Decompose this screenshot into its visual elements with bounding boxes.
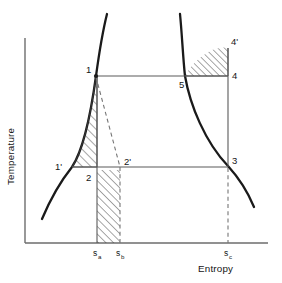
entropy-tick-sc: s c — [224, 248, 232, 260]
state-point-label-1p: 1' — [55, 161, 62, 172]
hatched-region-superheat — [185, 48, 228, 76]
saturation-dome-group — [42, 14, 254, 219]
superheat-region-fill — [185, 48, 228, 76]
hatched-region-heat-rejection — [97, 170, 120, 243]
state-point-1-marker — [94, 74, 98, 78]
saturated-vapor-line-curve — [180, 14, 254, 207]
y-axis-title: Temperature — [5, 127, 16, 185]
state-point-label-5: 5 — [179, 79, 184, 90]
state-point-label-4p: 4' — [231, 36, 238, 47]
state-point-label-4: 4 — [232, 70, 237, 81]
entropy-tick-sb-base: s — [116, 248, 120, 258]
state-point-label-1: 1 — [86, 64, 91, 75]
state-point-label-2p: 2' — [124, 156, 131, 167]
x-axis-title: Entropy — [198, 263, 233, 274]
axes-group — [25, 38, 268, 243]
state-point-label-3: 3 — [232, 155, 237, 166]
dashed-line-1-to-2p — [96, 77, 120, 167]
entropy-tick-sb-sub: b — [121, 253, 125, 260]
entropy-tick-sa-sub: a — [98, 253, 102, 260]
entropy-tick-sa: s a — [93, 248, 102, 260]
entropy-tick-sc-base: s — [224, 248, 228, 258]
entropy-tick-labels: s a s b s c — [93, 248, 232, 260]
state-point-markers — [94, 74, 98, 78]
entropy-tick-sb: s b — [116, 248, 125, 260]
entropy-tick-sa-base: s — [93, 248, 97, 258]
ts-diagram-figure: 1 1' 2 2' 3 4 4' 5 s a s b s c — [0, 0, 282, 283]
ts-diagram-svg: 1 1' 2 2' 3 4 4' 5 s a s b s c — [0, 0, 282, 283]
state-point-label-2: 2 — [86, 172, 91, 183]
heat-rejection-region-fill — [97, 170, 120, 243]
entropy-tick-sc-sub: c — [229, 253, 232, 260]
